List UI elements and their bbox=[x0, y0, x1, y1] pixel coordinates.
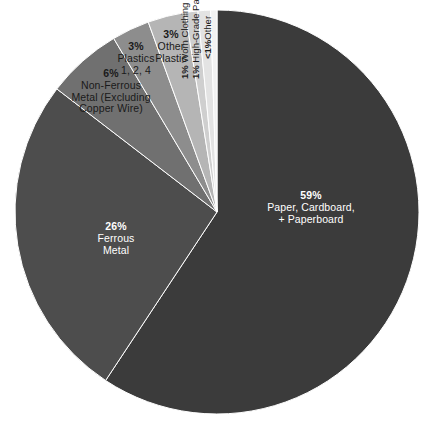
slice-label-worn-clothing: 1% Worn Clothing bbox=[180, 3, 190, 79]
slice-label-high-grade-paper: 1% High-Grade Paper bbox=[191, 0, 201, 79]
slice-percent-other: <1% bbox=[202, 40, 213, 59]
slice-label-ferrous-metal: 26% Ferrous Metal bbox=[62, 221, 170, 256]
slice-name-paper-cardboard-paperboard-line2: + Paperboard bbox=[243, 214, 379, 226]
slice-percent-paper-cardboard-paperboard: 59% bbox=[243, 190, 379, 202]
slice-name-worn-clothing: Worn Clothing bbox=[179, 3, 190, 63]
slice-label-other: <1%Other bbox=[203, 16, 213, 59]
pie-chart: 59% Paper, Cardboard, + Paperboard 26% F… bbox=[0, 0, 437, 424]
slice-name-ferrous-metal-line2: Metal bbox=[62, 245, 170, 257]
slice-name-non-ferrous-metal-line1: Non-Ferrous bbox=[41, 80, 181, 92]
slice-name-plastics-1-2-4-line2: 1, 2, 4 bbox=[100, 65, 172, 77]
slice-percent-high-grade-paper: 1% bbox=[190, 65, 201, 79]
slice-percent-ferrous-metal: 26% bbox=[62, 221, 170, 233]
slice-name-ferrous-metal-line1: Ferrous bbox=[62, 233, 170, 245]
slice-name-paper-cardboard-paperboard-line1: Paper, Cardboard, bbox=[243, 202, 379, 214]
slice-percent-worn-clothing: 1% bbox=[179, 65, 190, 79]
slice-name-non-ferrous-metal-line3: Copper Wire) bbox=[41, 103, 181, 115]
slice-name-high-grade-paper: High-Grade Paper bbox=[190, 0, 201, 63]
slice-label-paper-cardboard-paperboard: 59% Paper, Cardboard, + Paperboard bbox=[243, 190, 379, 225]
slice-name-other: Other bbox=[202, 16, 213, 40]
